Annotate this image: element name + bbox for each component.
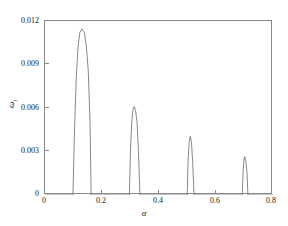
plot-area xyxy=(44,20,272,194)
y-axis-label-wrapper: ωi xyxy=(8,98,28,118)
chart-figure: 0 0.2 0.4 0.6 0.8 0.012 0.009 0.006 0.00… xyxy=(0,0,288,226)
xtick-mark-0.6 xyxy=(215,190,216,194)
ytick-label-0: 0 xyxy=(1,189,39,198)
ytick-mark-0.012 xyxy=(45,20,49,21)
xtick-mark-0.8 xyxy=(271,190,272,194)
x-axis-label: α xyxy=(0,208,288,218)
plot-curve-svg xyxy=(45,21,273,195)
y-axis-label-subscript: i xyxy=(12,100,18,102)
xtick-label-0.8: 0.8 xyxy=(251,196,288,206)
ytick-label-0.012: 0.012 xyxy=(1,16,39,25)
data-curve-omega-i xyxy=(45,29,273,195)
xtick-mark-0.2 xyxy=(101,190,102,194)
y-axis-label-symbol: ω xyxy=(6,102,16,108)
ytick-mark-0.006 xyxy=(45,107,49,108)
xtick-label-0.4: 0.4 xyxy=(138,196,178,206)
ytick-mark-0.009 xyxy=(45,63,49,64)
ytick-label-0.003: 0.003 xyxy=(1,146,39,155)
xtick-mark-0.4 xyxy=(158,190,159,194)
ytick-mark-0.003 xyxy=(45,150,49,151)
y-axis-label: ωi xyxy=(6,100,18,108)
xtick-label-0.2: 0.2 xyxy=(81,196,121,206)
ytick-mark-0 xyxy=(45,193,49,194)
ytick-label-0.009: 0.009 xyxy=(1,59,39,68)
xtick-label-0.6: 0.6 xyxy=(195,196,235,206)
